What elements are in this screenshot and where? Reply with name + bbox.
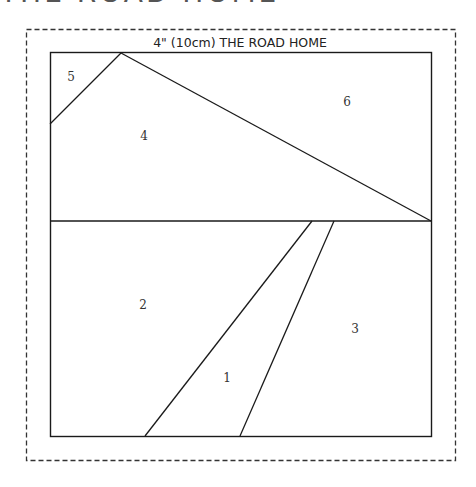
piece-number-3: 3 (351, 322, 359, 336)
piece-number-1: 1 (223, 371, 231, 385)
piece-number-4: 4 (140, 129, 148, 143)
pattern-title: 4" (10cm) THE ROAD HOME (153, 35, 327, 50)
piece-number-5: 5 (67, 70, 75, 84)
piece-number-2: 2 (139, 298, 147, 312)
block-outline (51, 53, 432, 437)
seam-4-6 (121, 53, 431, 221)
foundation-piecing-pattern: 4" (10cm) THE ROAD HOME 1 2 3 4 5 6 (0, 0, 476, 487)
piece-number-6: 6 (343, 95, 351, 109)
seam-5-4 (50, 53, 121, 124)
seam-allowance-border (27, 30, 456, 461)
